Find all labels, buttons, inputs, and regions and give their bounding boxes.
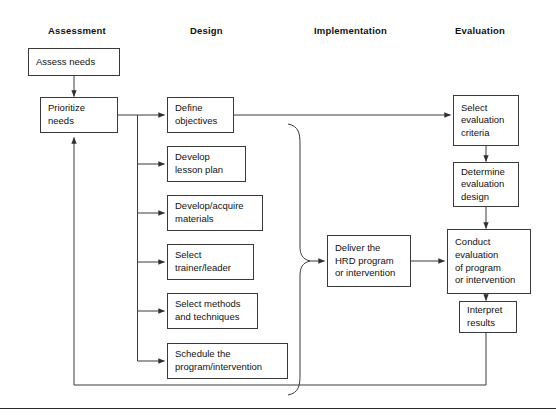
figure-bottom-rule [0, 408, 556, 409]
column-header-evaluation: Evaluation [455, 25, 505, 36]
node-select-criteria[interactable]: Select evaluation criteria [453, 95, 519, 146]
column-header-design: Design [190, 25, 223, 36]
node-prioritize-needs[interactable]: Prioritize needs [40, 97, 118, 133]
node-assess-needs[interactable]: Assess needs [28, 48, 120, 76]
node-develop-materials[interactable]: Develop/acquire materials [167, 195, 263, 231]
column-header-assessment: Assessment [48, 25, 106, 36]
node-conduct-evaluation[interactable]: Conduct evaluation of program or interve… [447, 229, 531, 294]
node-interpret-results[interactable]: Interpret results [459, 301, 517, 333]
node-schedule-program[interactable]: Schedule the program/intervention [167, 343, 288, 379]
node-select-trainer[interactable]: Select trainer/leader [167, 244, 254, 280]
column-header-implementation: Implementation [314, 25, 387, 36]
node-deliver-program[interactable]: Deliver the HRD program or intervention [327, 235, 411, 287]
node-determine-design[interactable]: Determine evaluation design [453, 162, 519, 207]
node-define-objectives[interactable]: Define objectives [167, 97, 234, 133]
node-select-methods[interactable]: Select methods and techniques [167, 293, 258, 329]
flowchart-figure: Assessment Design Implementation Evaluat… [0, 0, 556, 416]
node-develop-lesson-plan[interactable]: Develop lesson plan [167, 146, 246, 182]
